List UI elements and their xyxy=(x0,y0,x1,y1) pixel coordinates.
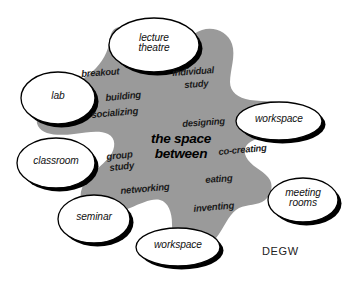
node-label-line: lab xyxy=(14,91,103,102)
node-label-line: workspace xyxy=(227,114,330,125)
blob-activity-label: study xyxy=(184,78,209,89)
node-label-lab: lab xyxy=(14,91,103,102)
node-label-line: theatre xyxy=(100,43,208,54)
node-label-line: rooms xyxy=(261,198,344,209)
center-title-line2: between xyxy=(133,147,229,162)
node-label-classroom: classroom xyxy=(9,156,103,167)
blob-activity-label: eating xyxy=(205,173,233,185)
node-label-line: classroom xyxy=(9,156,103,167)
node-label-meeting-rooms: meetingrooms xyxy=(261,188,344,209)
brand-label: DEGW xyxy=(262,245,299,257)
diagram-canvas: the space between breakoutindividualstud… xyxy=(0,0,344,281)
center-title-line1: the space xyxy=(133,132,229,147)
node-label-line: seminar xyxy=(51,212,137,223)
center-title: the space between xyxy=(133,132,229,161)
node-label-seminar: seminar xyxy=(51,212,137,223)
node-label-workspace-right: workspace xyxy=(227,114,330,125)
node-label-lecture-theatre: lecturetheatre xyxy=(100,33,208,54)
node-label-line: workspace xyxy=(128,240,229,251)
node-label-workspace-bottom: workspace xyxy=(128,240,229,251)
